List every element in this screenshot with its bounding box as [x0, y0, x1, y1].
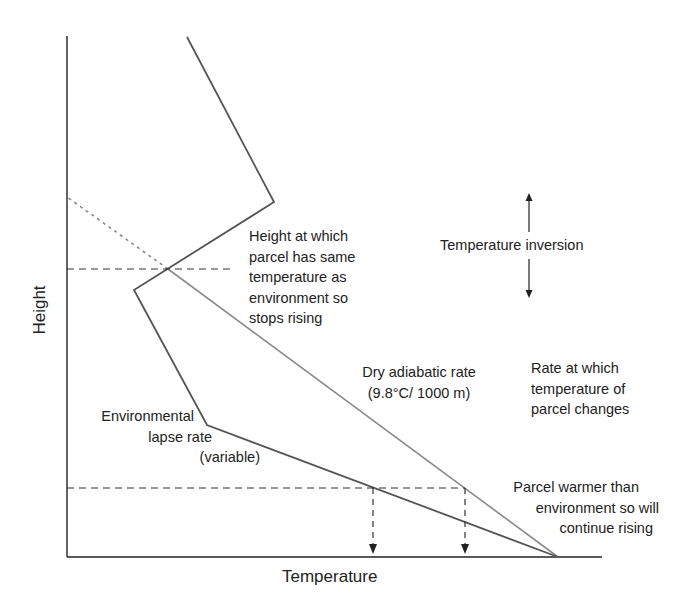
x-axis-title: Temperature	[282, 567, 377, 587]
label-line: Dry adiabatic rate	[346, 362, 492, 383]
label-line: parcel changes	[531, 399, 629, 420]
label-line: Parcel warmer than	[460, 477, 639, 498]
label-line: Height at which	[249, 226, 355, 247]
label-line: (9.8°C/ 1000 m)	[346, 383, 492, 404]
label-line: stops rising	[249, 308, 355, 329]
arrowhead-down-icon	[461, 544, 469, 554]
label-line: environment so	[249, 288, 355, 309]
label-line: Rate at which	[531, 358, 629, 379]
arrowhead-up-icon	[526, 193, 533, 201]
parcel-rate-label: Rate at which temperature of parcel chan…	[531, 358, 629, 420]
arrowhead-down-icon	[369, 544, 377, 554]
label-line: parcel has same	[249, 247, 355, 268]
temperature-inversion-label: Temperature inversion	[440, 235, 583, 256]
parcel-warmer-label: Parcel warmer than environment so will c…	[460, 477, 659, 539]
equilibrium-height-label: Height at which parcel has same temperat…	[249, 226, 355, 329]
label-line: lapse rate	[70, 427, 212, 448]
label-line: (variable)	[70, 447, 260, 468]
arrowhead-down-icon	[526, 290, 533, 298]
label-line: environment so will	[460, 498, 659, 519]
dry-adiabatic-extension-line	[67, 197, 168, 269]
label-line: Environmental	[70, 406, 194, 427]
environmental-lapse-label: Environmental lapse rate (variable)	[70, 406, 260, 468]
label-line: temperature of	[531, 379, 629, 400]
label-line: temperature as	[249, 267, 355, 288]
label-line: continue rising	[460, 518, 653, 539]
y-axis-title: Height	[30, 270, 50, 350]
dry-adiabatic-label: Dry adiabatic rate (9.8°C/ 1000 m)	[346, 362, 492, 403]
